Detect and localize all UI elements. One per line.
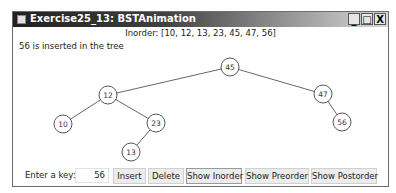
delete-button[interactable]: Delete bbox=[148, 168, 184, 184]
tree-node: 13 bbox=[122, 143, 140, 161]
tree-edge bbox=[239, 70, 315, 92]
show-inorder-button[interactable]: Show Inorder bbox=[186, 168, 242, 184]
tree-edge bbox=[328, 101, 337, 114]
show-postorder-button[interactable]: Show Postorder bbox=[311, 168, 377, 184]
key-input[interactable]: 56 bbox=[75, 168, 109, 183]
svg-text:47: 47 bbox=[318, 90, 328, 99]
svg-text:45: 45 bbox=[225, 63, 235, 72]
svg-text:13: 13 bbox=[126, 148, 136, 157]
svg-text:23: 23 bbox=[151, 119, 161, 128]
svg-text:10: 10 bbox=[58, 120, 68, 129]
tree-edge bbox=[117, 69, 221, 93]
tree-node: 47 bbox=[314, 85, 332, 103]
tree-node: 23 bbox=[147, 114, 165, 132]
tree-node: 45 bbox=[221, 58, 239, 76]
tree-node: 12 bbox=[99, 86, 117, 104]
control-bar: Enter a key: 56 Insert Delete Show Inord… bbox=[13, 165, 388, 186]
tree-node: 56 bbox=[333, 113, 351, 131]
key-label: Enter a key: bbox=[25, 170, 76, 180]
tree-node: 10 bbox=[54, 115, 72, 133]
tree-edge bbox=[116, 100, 148, 119]
show-preorder-button[interactable]: Show Preorder bbox=[245, 168, 309, 184]
svg-text:12: 12 bbox=[103, 91, 113, 100]
tree-edge bbox=[137, 130, 150, 145]
insert-button[interactable]: Insert bbox=[113, 168, 146, 184]
app-window: Exercise25_13: BSTAnimation _ □ X Inorde… bbox=[12, 11, 389, 187]
tree-edge bbox=[71, 100, 101, 119]
svg-text:56: 56 bbox=[337, 118, 347, 127]
